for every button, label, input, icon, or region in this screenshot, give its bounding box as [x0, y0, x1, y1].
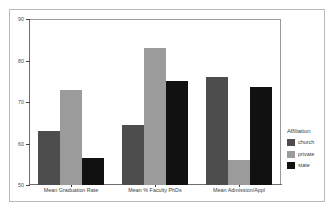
legend-item-label: church: [298, 139, 314, 146]
bar-church: [206, 77, 228, 185]
y-axis-tick-label-text: 60: [2, 141, 24, 147]
chart-legend: Affiliation churchprivatestate: [287, 128, 331, 173]
bar-chart-figure: 9080706050 Mean Graduation RateMean % Fa…: [0, 0, 334, 211]
bar-state: [250, 87, 272, 185]
y-axis-tick: [26, 185, 30, 186]
legend-item[interactable]: church: [287, 138, 331, 147]
legend-swatch-icon: [287, 162, 295, 169]
bar-private: [60, 90, 82, 185]
legend-swatch-icon: [287, 139, 295, 146]
bar-private: [144, 48, 166, 185]
legend-swatch-icon: [287, 151, 295, 158]
x-axis-tick-label: Mean Admission/Appl: [197, 187, 281, 194]
y-axis-tick-label: 70: [0, 99, 24, 105]
bar-state: [166, 81, 188, 185]
legend-item-label: state: [298, 162, 310, 169]
y-axis-tick-label: 50: [0, 182, 24, 188]
y-axis-tick-label: 80: [0, 58, 24, 64]
y-axis-tick: [26, 19, 30, 20]
bar-private: [228, 160, 250, 185]
y-axis-tick-label: 60: [0, 141, 24, 147]
legend-item[interactable]: state: [287, 161, 331, 170]
bar-church: [122, 125, 144, 185]
bar-church: [38, 131, 60, 185]
y-axis-tick-label-text: 70: [2, 99, 24, 105]
y-axis-tick: [26, 61, 30, 62]
bar-state: [82, 158, 104, 185]
legend-item-label: private: [298, 151, 314, 158]
y-axis-tick-label-text: 50: [2, 182, 24, 188]
legend-items: churchprivatestate: [287, 138, 331, 170]
legend-item[interactable]: private: [287, 150, 331, 159]
y-axis-tick-label-text: 90: [2, 16, 24, 22]
x-axis-tick-label: Mean % Faculty PhDs: [113, 187, 197, 194]
y-axis-tick: [26, 102, 30, 103]
legend-title: Affiliation: [287, 128, 331, 135]
x-axis-tick-label: Mean Graduation Rate: [29, 187, 113, 194]
y-axis-tick: [26, 144, 30, 145]
y-axis-tick-label: 90: [0, 16, 24, 22]
y-axis-tick-label-text: 80: [2, 58, 24, 64]
